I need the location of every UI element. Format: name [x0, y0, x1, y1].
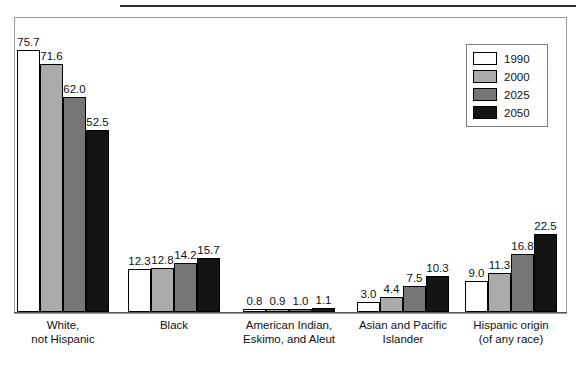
- legend-label: 2050: [504, 107, 530, 119]
- legend-swatch-2000-icon: [473, 70, 497, 83]
- bar-value-label: 71.6: [40, 50, 62, 62]
- bar-slot: 71.6: [40, 42, 63, 312]
- bar-group: 12.312.814.215.7: [128, 42, 220, 312]
- bar-slot: 1.0: [289, 42, 312, 312]
- bar[interactable]: [174, 263, 197, 312]
- bar-slot: 12.8: [151, 42, 174, 312]
- bar[interactable]: [63, 97, 86, 312]
- bar-slot: 75.7: [17, 42, 40, 312]
- bar-value-label: 9.0: [469, 267, 485, 279]
- bar-value-label: 0.8: [247, 295, 263, 307]
- bar-slot: 4.4: [380, 42, 403, 312]
- bar-slot: 62.0: [63, 42, 86, 312]
- bar[interactable]: [151, 268, 174, 312]
- bar-value-label: 10.3: [426, 262, 448, 274]
- bar-value-label: 14.2: [174, 249, 196, 261]
- category-axis-line: [14, 312, 567, 313]
- bar-value-label: 1.1: [316, 294, 332, 306]
- bar[interactable]: [197, 258, 220, 312]
- bar-slot: 10.3: [426, 42, 449, 312]
- bar-group-bars: 0.80.91.01.1: [243, 42, 335, 312]
- bar[interactable]: [465, 281, 488, 312]
- bar-value-label: 52.5: [86, 116, 108, 128]
- bar-value-label: 15.7: [197, 244, 219, 256]
- bar[interactable]: [128, 269, 151, 312]
- bar-group: 75.771.662.052.5: [17, 42, 109, 312]
- bar[interactable]: [357, 302, 380, 312]
- bar-value-label: 22.5: [534, 220, 556, 232]
- bar[interactable]: [426, 276, 449, 312]
- chart-figure: 75.771.662.052.5White, not Hispanic12.31…: [0, 0, 578, 366]
- bar-value-label: 3.0: [361, 288, 377, 300]
- legend-swatch-1990-icon: [473, 52, 497, 65]
- legend: 1990 2000 2025 2050: [466, 44, 548, 127]
- bar-slot: 12.3: [128, 42, 151, 312]
- bar-group-bars: 12.312.814.215.7: [128, 42, 220, 312]
- bar-value-label: 62.0: [63, 83, 85, 95]
- legend-item[interactable]: 2000: [473, 68, 541, 85]
- bar[interactable]: [534, 234, 557, 312]
- bar[interactable]: [86, 130, 109, 312]
- bar-group-bars: 3.04.47.510.3: [357, 42, 449, 312]
- bar-slot: 1.1: [312, 42, 335, 312]
- bar-slot: 3.0: [357, 42, 380, 312]
- bar-value-label: 4.4: [384, 283, 400, 295]
- legend-item[interactable]: 2025: [473, 86, 541, 103]
- bar-group-bars: 75.771.662.052.5: [17, 42, 109, 312]
- bar[interactable]: [403, 286, 426, 312]
- bar-value-label: 1.0: [293, 295, 309, 307]
- bar[interactable]: [40, 64, 63, 312]
- bar[interactable]: [17, 50, 40, 312]
- bar-group: 0.80.91.01.1: [243, 42, 335, 312]
- legend-item[interactable]: 2050: [473, 104, 541, 121]
- bar[interactable]: [380, 297, 403, 312]
- bar-value-label: 0.9: [270, 295, 286, 307]
- category-label: Hispanic origin (of any race): [431, 319, 578, 346]
- bar-value-label: 16.8: [511, 240, 533, 252]
- legend-label: 2025: [504, 89, 530, 101]
- bar[interactable]: [511, 254, 534, 312]
- bar-value-label: 12.8: [151, 254, 173, 266]
- bar-slot: 0.9: [266, 42, 289, 312]
- bar-slot: 15.7: [197, 42, 220, 312]
- legend-label: 2000: [504, 71, 530, 83]
- bar-slot: 52.5: [86, 42, 109, 312]
- bar-slot: 14.2: [174, 42, 197, 312]
- legend-item[interactable]: 1990: [473, 50, 541, 67]
- bar-value-label: 11.3: [489, 259, 511, 271]
- bar[interactable]: [488, 273, 511, 312]
- bar-value-label: 12.3: [128, 255, 150, 267]
- bar-slot: 7.5: [403, 42, 426, 312]
- bar-value-label: 75.7: [17, 36, 39, 48]
- bar-slot: 0.8: [243, 42, 266, 312]
- legend-swatch-2025-icon: [473, 88, 497, 101]
- legend-label: 1990: [504, 53, 530, 65]
- bar-value-label: 7.5: [407, 272, 423, 284]
- bar-group: 3.04.47.510.3: [357, 42, 449, 312]
- legend-swatch-2050-icon: [473, 106, 497, 119]
